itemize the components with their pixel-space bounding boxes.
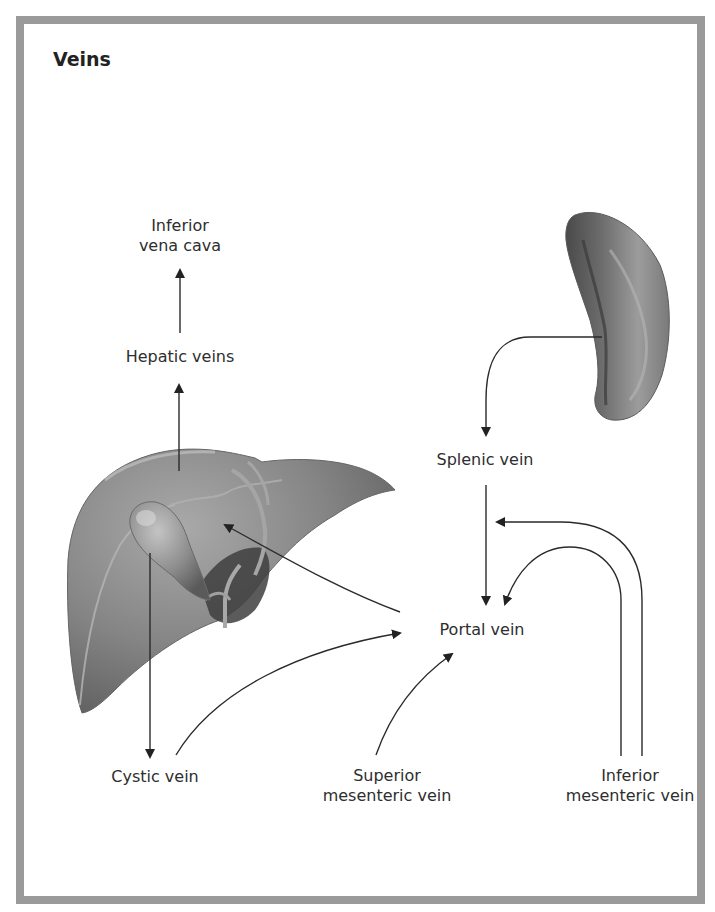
label-ivc-line1: Inferior <box>120 216 240 236</box>
arrow-spleen-to-splenic <box>486 337 602 435</box>
label-inferior-mesenteric-vein: Inferior mesenteric vein <box>555 766 705 806</box>
label-superior-mesenteric-vein: Superior mesenteric vein <box>312 766 462 806</box>
label-smv-line1: Superior <box>312 766 462 786</box>
label-portal-vein: Portal vein <box>412 620 552 640</box>
arrow-smv-to-portal <box>376 654 452 755</box>
label-ivc-line2: vena cava <box>120 236 240 256</box>
arrow-imv-to-portal <box>505 547 621 756</box>
label-splenic-vein: Splenic vein <box>420 450 550 470</box>
arrow-cystic-to-portal <box>176 633 400 755</box>
label-imv-line1: Inferior <box>555 766 705 786</box>
label-imv-line2: mesenteric vein <box>555 786 705 806</box>
label-inferior-vena-cava: Inferior vena cava <box>120 216 240 256</box>
label-cystic-vein: Cystic vein <box>95 767 215 787</box>
label-smv-line2: mesenteric vein <box>312 786 462 806</box>
spleen-illustration <box>566 212 669 420</box>
liver-illustration <box>68 449 395 713</box>
label-hepatic-veins: Hepatic veins <box>105 347 255 367</box>
